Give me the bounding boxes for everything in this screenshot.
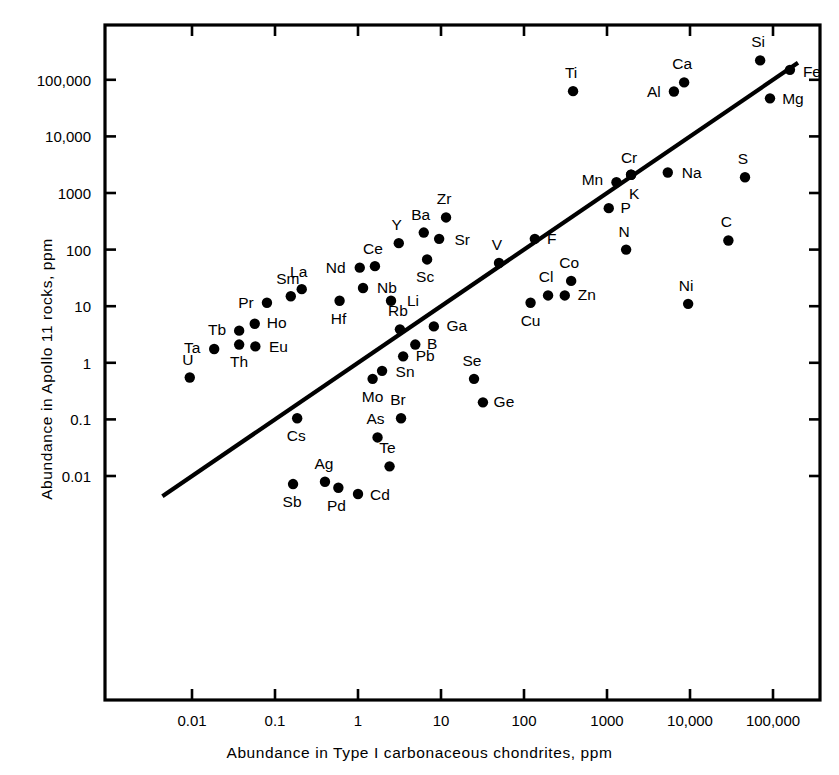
- point-label-pb: Pb: [416, 347, 435, 365]
- point-label-th: Th: [230, 353, 248, 371]
- point-label-na: Na: [682, 164, 702, 182]
- point-label-rb: Rb: [388, 302, 408, 320]
- reference-line: [162, 63, 798, 496]
- point-label-cu: Cu: [521, 312, 541, 330]
- point-label-sn: Sn: [396, 363, 415, 381]
- point-label-mg: Mg: [782, 90, 804, 108]
- point-label-c: C: [721, 213, 732, 231]
- point-label-sc: Sc: [416, 268, 434, 286]
- x-tick-label: 100,000: [746, 712, 800, 729]
- point-label-zr: Zr: [437, 190, 452, 208]
- point-label-ti: Ti: [565, 64, 577, 82]
- point-label-v: V: [492, 236, 502, 254]
- point-label-sb: Sb: [283, 493, 302, 511]
- point-label-al: Al: [647, 83, 661, 101]
- x-tick-label: 10,000: [667, 712, 713, 729]
- point-label-n: N: [619, 223, 630, 241]
- point-label-mo: Mo: [362, 388, 384, 406]
- x-tick-label: 1000: [590, 712, 623, 729]
- point-label-as: As: [367, 410, 385, 428]
- point-label-hf: Hf: [331, 310, 347, 328]
- point-label-ba: Ba: [411, 206, 430, 224]
- x-axis-title: Abundance in Type I carbonaceous chondri…: [0, 744, 839, 762]
- point-label-ge: Ge: [494, 393, 515, 411]
- point-label-pd: Pd: [327, 497, 346, 515]
- plot-canvas: [0, 0, 839, 775]
- point-label-ag: Ag: [314, 455, 333, 473]
- point-label-ca: Ca: [672, 55, 692, 73]
- y-axis-title: Abundance in Apollo 11 rocks, ppm: [38, 69, 56, 669]
- point-label-eu: Eu: [269, 338, 288, 356]
- point-label-cd: Cd: [370, 486, 390, 504]
- point-label-pr: Pr: [238, 294, 254, 312]
- point-label-s: S: [738, 150, 748, 168]
- point-label-cr: Cr: [621, 149, 637, 167]
- point-label-cs: Cs: [287, 427, 306, 445]
- point-label-te: Te: [379, 439, 395, 457]
- x-tick-label: 100: [511, 712, 536, 729]
- x-tick-label: 10: [433, 712, 450, 729]
- point-label-f: F: [547, 230, 556, 248]
- point-label-la: La: [290, 263, 307, 281]
- x-tick-label: 0.01: [177, 712, 206, 729]
- point-label-si: Si: [751, 33, 765, 51]
- point-label-nb: Nb: [377, 279, 397, 297]
- point-label-li: Li: [407, 292, 419, 310]
- point-label-ni: Ni: [679, 277, 694, 295]
- point-label-sr: Sr: [454, 231, 470, 249]
- point-label-co: Co: [559, 254, 579, 272]
- point-label-tb: Tb: [208, 321, 226, 339]
- point-label-nd: Nd: [326, 259, 346, 277]
- point-label-fe: Fe: [803, 63, 821, 81]
- point-label-ga: Ga: [447, 317, 468, 335]
- point-label-br: Br: [390, 391, 406, 409]
- point-label-k: K: [629, 185, 639, 203]
- point-label-ce: Ce: [363, 240, 383, 258]
- scatter-chart-figure: 0.010.1110100100010,000100,000 0.010.111…: [0, 0, 839, 775]
- point-label-zn: Zn: [578, 286, 596, 304]
- point-label-cl: Cl: [539, 268, 554, 286]
- point-label-se: Se: [463, 352, 482, 370]
- x-tick-label: 1: [354, 712, 362, 729]
- point-label-mn: Mn: [582, 171, 604, 189]
- point-label-y: Y: [392, 216, 402, 234]
- point-label-ta: Ta: [184, 339, 200, 357]
- x-tick-label: 0.1: [265, 712, 286, 729]
- point-label-ho: Ho: [267, 314, 287, 332]
